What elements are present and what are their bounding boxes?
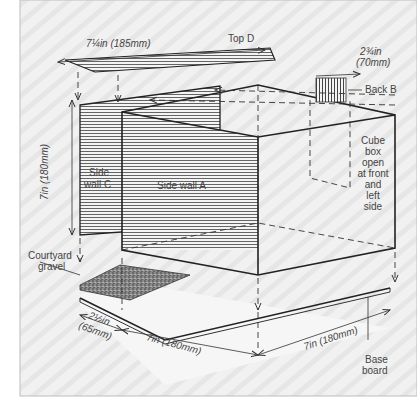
cube-note-line: left	[366, 190, 380, 201]
cube-note-line: Cube	[361, 135, 385, 146]
label-side-c-2: wall C	[83, 179, 111, 190]
cube-note-line: box	[365, 146, 381, 157]
label-top-width: 7¼in (185mm)	[86, 38, 150, 49]
label-back-width-1: 2¾in	[359, 46, 382, 57]
label-height: 7in (180mm)	[39, 144, 50, 200]
cube-note-line: open	[362, 157, 384, 168]
label-back-width-2: (70mm)	[356, 57, 390, 68]
label-side-a: Side wall A	[157, 180, 206, 191]
label-back-b: Back B	[365, 84, 397, 95]
label-base-2: board	[362, 365, 388, 376]
back-b	[316, 78, 346, 102]
label-top-d: Top D	[228, 33, 254, 44]
diagram-canvas: 7¼in (185mm) Top D 2¾in (70mm) Back B 7i…	[0, 0, 417, 411]
label-side-c-1: Side	[89, 167, 109, 178]
cube-note-line: and	[365, 179, 382, 190]
exploded-box-diagram: 7¼in (185mm) Top D 2¾in (70mm) Back B 7i…	[0, 0, 417, 411]
label-gravel-2: gravel	[38, 261, 65, 272]
label-base-1: Base	[365, 354, 388, 365]
cube-note-line: at front	[357, 168, 388, 179]
label-gravel-1: Courtyard	[28, 250, 72, 261]
cube-note-line: side	[364, 201, 383, 212]
